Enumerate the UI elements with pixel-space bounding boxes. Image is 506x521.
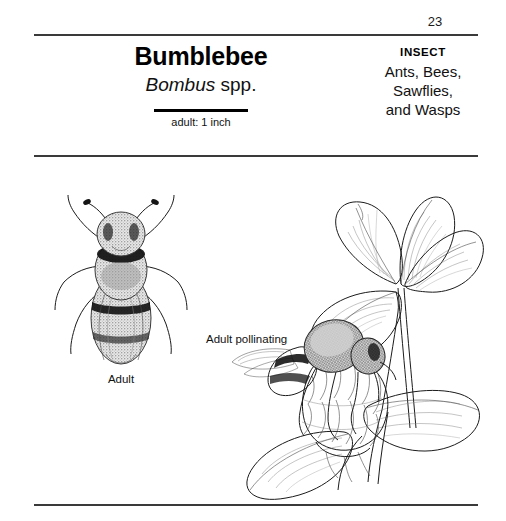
title-column: Bumblebee Bombus spp. adult: 1 inch [34, 36, 368, 129]
scientific-name-genus: Bombus [146, 74, 216, 95]
adult-caption: Adult [46, 372, 196, 386]
page-title: Bumblebee [34, 41, 368, 71]
bumblebee-adult-illustration [46, 184, 196, 384]
category-kicker: INSECT [368, 45, 478, 60]
clover-with-bee-icon [198, 160, 490, 500]
scientific-name: Bombus spp. [34, 73, 368, 97]
pollinating-caption: Adult pollinating [206, 332, 326, 346]
header-block: Bumblebee Bombus spp. adult: 1 inch INSE… [34, 36, 478, 154]
scientific-name-qualifier: spp. [221, 74, 257, 95]
category-line: Sawflies, [368, 81, 478, 100]
field-guide-page: 23 Bumblebee Bombus spp. adult: 1 inch I… [0, 0, 506, 521]
category-line: Ants, Bees, [368, 62, 478, 81]
page-number: 23 [410, 14, 460, 30]
scale-indicator: adult: 1 inch [34, 109, 368, 129]
category-column: INSECT Ants, Bees, Sawflies, and Wasps [368, 36, 478, 119]
category-line: and Wasps [368, 100, 478, 119]
scale-bar-icon [154, 109, 248, 112]
illustration-area: Adult [0, 160, 506, 502]
category-group-name: Ants, Bees, Sawflies, and Wasps [368, 62, 478, 119]
scale-label: adult: 1 inch [171, 115, 230, 129]
bumblebee-pollinating-illustration [198, 160, 490, 500]
divider-rule-bottom [34, 504, 478, 506]
divider-rule-header [34, 155, 478, 157]
bumblebee-adult-icon [46, 184, 196, 384]
